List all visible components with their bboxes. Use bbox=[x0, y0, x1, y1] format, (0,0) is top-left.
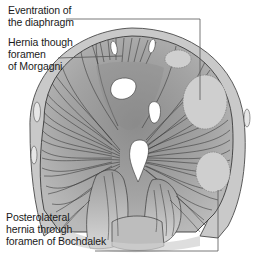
rib-oval-right-1 bbox=[244, 109, 250, 127]
esophageal-foramen bbox=[149, 102, 161, 123]
rib-oval-left-2 bbox=[31, 146, 37, 164]
label-morgagni-hernia: Hernia though foramen of Morgagni bbox=[8, 36, 73, 72]
label-bochdalek-hernia: Posterolateral hernia through foramen of… bbox=[6, 211, 106, 247]
diaphragm-hernia-diagram: Eventration of the diaphragm Hernia thou… bbox=[0, 0, 260, 262]
eventration-oval-upper bbox=[165, 50, 191, 68]
bochdalek-oval bbox=[196, 152, 230, 192]
rib-oval-left-1 bbox=[34, 102, 41, 122]
label-eventration: Eventration of the diaphragm bbox=[8, 4, 74, 28]
eventration-oval-large bbox=[183, 75, 227, 129]
